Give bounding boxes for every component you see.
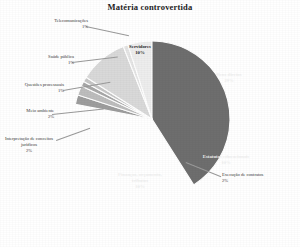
callout-percent: 1% (2, 88, 64, 94)
callout-label: Execução de contratos (222, 172, 263, 177)
callout-percent: 2% (222, 178, 296, 184)
page-title: Matéria controvertida (0, 2, 300, 12)
callout-execucao-de-contratos: Execução de contratos 2% (222, 172, 296, 184)
inside-label-percent: 10% (102, 184, 178, 190)
callout-questoes-processuais: Questões processuais 1% (2, 82, 64, 94)
callout-percent: 1% (16, 60, 74, 66)
inside-label-percent: 29% (198, 78, 260, 84)
callout-label: Saúde pública (48, 54, 74, 59)
inside-label-text: Estatutos educacionais (203, 154, 250, 159)
callout-saude-publica: Saúde pública 1% (16, 54, 74, 66)
callout-telecomunicacoes: Telecomunicações 1% (26, 18, 88, 30)
pie-chart: Telecomunicações 1% Saúde pública 1% Que… (0, 14, 300, 247)
inside-label-servidores: Servidores 10% (108, 44, 172, 56)
inside-label-bens-diretos: Bens diretos 29% (198, 72, 260, 84)
callout-label: Questões processuais (25, 82, 64, 87)
inside-label-text: Bens diretos (216, 72, 241, 77)
inside-label-financas-orcamento-tributos: Finanças, orçamento, tributos 10% (102, 172, 178, 191)
inside-label-estatutos-educacionais: Estatutos educacionais 10% (186, 154, 266, 166)
callout-interpretacao-conceitos-juridicos: Interpretação de conceitos jurídicos 2% (0, 136, 58, 154)
inside-label-text: Finanças, orçamento, (118, 172, 162, 177)
inside-label-percent: 10% (186, 160, 266, 166)
callout-percent: 2% (0, 148, 58, 154)
inside-label-text: Servidores (129, 44, 151, 49)
callout-meio-ambiente: Meio ambiente 2% (4, 108, 54, 120)
callout-label: Telecomunicações (54, 18, 88, 23)
callout-label: Interpretação de conceitos (5, 136, 53, 141)
callout-label: Meio ambiente (26, 108, 54, 113)
callout-percent: 1% (26, 24, 88, 30)
inside-label-percent: 10% (108, 50, 172, 56)
callout-percent: 2% (4, 114, 54, 120)
